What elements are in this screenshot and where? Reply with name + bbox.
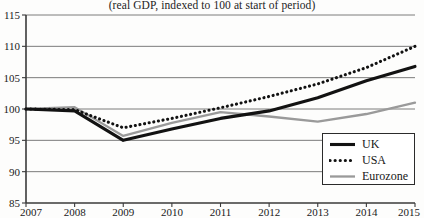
legend-item-eurozone: Eurozone bbox=[329, 168, 408, 184]
data-series bbox=[26, 46, 415, 140]
y-axis-tick-labels: 859095100105110115 bbox=[4, 9, 21, 209]
legend-label-usa: USA bbox=[362, 154, 386, 166]
legend-label-uk: UK bbox=[362, 138, 379, 150]
y-tick-label-90: 90 bbox=[9, 166, 21, 178]
x-axis-tick-labels: 200720082009201020112012201320142015 bbox=[20, 206, 421, 218]
legend-item-usa: USA bbox=[329, 152, 386, 168]
legend-item-uk: UK bbox=[329, 136, 379, 152]
gdp-index-line-chart: (real GDP, indexed to 100 at start of pe… bbox=[0, 0, 424, 218]
chart-legend: UK USA Eurozone bbox=[322, 133, 415, 185]
x-tick-label-2015: 2015 bbox=[398, 206, 421, 218]
x-tick-label-2007: 2007 bbox=[20, 206, 43, 218]
y-tick-label-105: 105 bbox=[4, 72, 21, 84]
y-tick-label-95: 95 bbox=[9, 134, 21, 146]
x-tick-label-2014: 2014 bbox=[355, 206, 378, 218]
x-tick-label-2011: 2011 bbox=[210, 206, 232, 218]
legend-label-eurozone: Eurozone bbox=[362, 170, 408, 182]
x-tick-label-2009: 2009 bbox=[112, 206, 135, 218]
y-tick-label-115: 115 bbox=[4, 9, 21, 21]
x-tick-label-2010: 2010 bbox=[161, 206, 184, 218]
y-tick-label-100: 100 bbox=[4, 103, 21, 115]
legend-swatch-uk bbox=[329, 139, 356, 150]
plot-area: 859095100105110115 200720082009201020112… bbox=[0, 0, 424, 218]
y-tick-label-110: 110 bbox=[4, 40, 21, 52]
y-tick-label-85: 85 bbox=[9, 197, 21, 209]
x-tick-label-2008: 2008 bbox=[64, 206, 87, 218]
legend-swatch-usa bbox=[329, 155, 356, 166]
x-tick-label-2013: 2013 bbox=[307, 206, 330, 218]
x-tick-label-2012: 2012 bbox=[258, 206, 280, 218]
legend-swatch-eurozone bbox=[329, 171, 356, 182]
